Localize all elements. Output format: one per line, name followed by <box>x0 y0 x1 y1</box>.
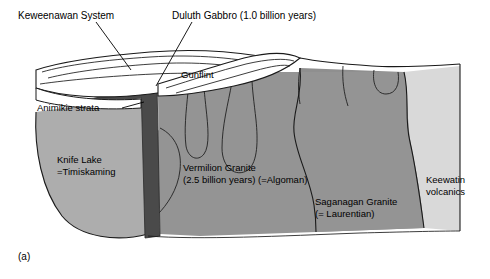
unit-vermilion-granite <box>158 72 424 236</box>
label-saganagan-granite-line1: Saganagan Granite <box>315 196 397 207</box>
label-animikie-strata: Animikie strata <box>37 102 100 113</box>
label-keewatin-line1: Keewatin <box>426 174 465 185</box>
label-duluth-gabbro: Duluth Gabbro (1.0 billion years) <box>172 10 316 21</box>
label-gunflint: Gunflint <box>181 69 214 80</box>
label-vermilion-granite-line1: Vermilion Granite <box>183 162 256 173</box>
label-keewatin-line2: volcanics <box>426 186 465 197</box>
cross-section-diagram: Keweenawan System Duluth Gabbro (1.0 bil… <box>0 0 490 279</box>
label-knife-lake-line1: Knife Lake <box>57 154 102 165</box>
panel-letter: (a) <box>18 251 30 262</box>
geologic-cross-section-figure: Keweenawan System Duluth Gabbro (1.0 bil… <box>0 0 490 279</box>
label-vermilion-granite-line2: (2.5 billion years) (=Algoman) <box>183 174 307 185</box>
label-saganagan-granite-line2: (= Laurentian) <box>315 208 374 219</box>
basement-top-surface <box>300 58 460 67</box>
label-knife-lake-line2: =Timiskaming <box>57 166 116 177</box>
label-keweenawan-system: Keweenawan System <box>18 10 114 21</box>
